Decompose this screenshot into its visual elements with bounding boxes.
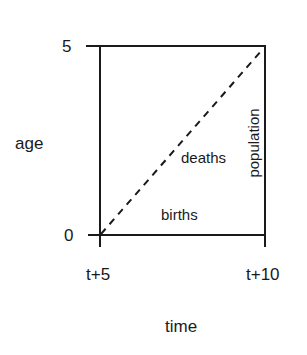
lexis-diagram: 5 0 age t+5 t+10 time deaths births popu…: [0, 0, 307, 355]
y-tick-5: 5: [62, 38, 71, 55]
x-tick-t-plus-10: t+10: [246, 266, 280, 283]
x-axis-label: time: [165, 318, 197, 335]
y-axis-label: age: [15, 135, 43, 152]
deaths-label: deaths: [181, 150, 226, 165]
y-tick-0: 0: [64, 227, 73, 244]
births-label: births: [161, 207, 198, 222]
population-label: population: [246, 108, 261, 177]
x-tick-t-plus-5: t+5: [86, 266, 110, 283]
